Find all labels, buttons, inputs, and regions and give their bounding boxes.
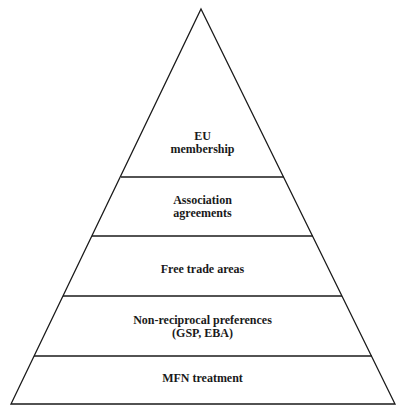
level-label: Free trade areas: [0, 263, 405, 276]
level-free-trade-areas: Free trade areas: [0, 263, 405, 276]
level-non-reciprocal-preferences: Non-reciprocal preferences (GSP, EBA): [0, 314, 405, 340]
level-label: MFN treatment: [0, 372, 405, 385]
level-label: membership: [0, 143, 405, 156]
level-mfn-treatment: MFN treatment: [0, 372, 405, 385]
level-association-agreements: Association agreements: [0, 194, 405, 220]
level-label: (GSP, EBA): [0, 327, 405, 340]
level-eu-membership: EU membership: [0, 130, 405, 156]
level-label: agreements: [0, 207, 405, 220]
